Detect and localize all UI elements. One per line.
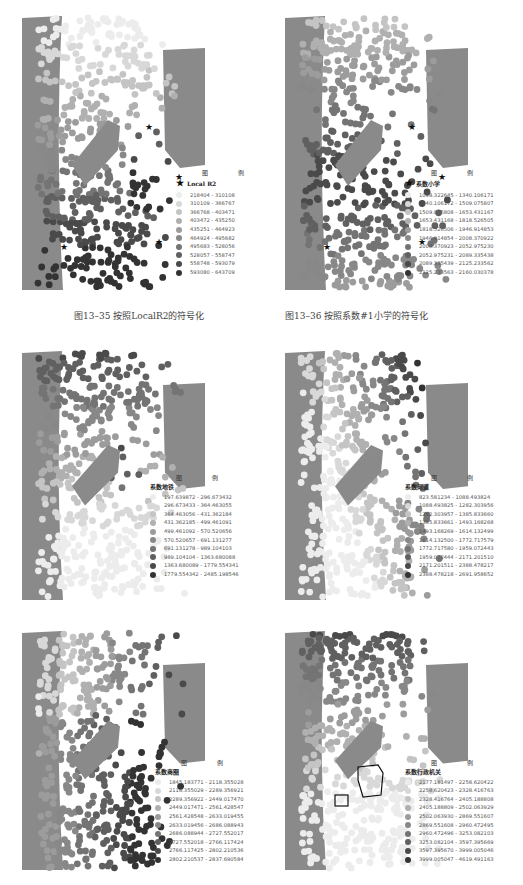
class-range-label: 2449.017471 - 2561.428547	[169, 805, 243, 810]
star-icon: ★	[176, 179, 184, 188]
legend-class-row: 2449.017471 - 2561.428547	[155, 804, 243, 813]
class-swatch-icon	[405, 494, 411, 500]
class-swatch-icon	[405, 520, 411, 526]
star-icon: ★	[405, 179, 413, 188]
class-swatch-icon	[405, 244, 411, 250]
class-range-label: 2561.428548 - 2633.019455	[169, 814, 243, 819]
legend-title: 图 例	[431, 170, 493, 176]
legend-class-row: 558748 - 593079	[176, 260, 258, 269]
class-swatch-icon	[405, 529, 411, 535]
legend-class-row: 197.639872 - 296.673432	[150, 493, 238, 502]
legend-field: 系数行政机关	[405, 769, 493, 775]
class-swatch-icon	[405, 503, 411, 509]
class-swatch-icon	[405, 554, 411, 560]
svg-text:★: ★	[323, 242, 331, 252]
class-swatch-icon	[150, 554, 156, 560]
class-range-label: 2125.233563 - 2160.030378	[419, 270, 493, 275]
legend-class-row: 3999.005047 - 4619.491163	[405, 855, 493, 864]
legend-title: 图 例	[181, 760, 243, 766]
class-swatch-icon	[150, 511, 156, 517]
class-swatch-icon	[150, 529, 156, 535]
legend-title: 图 例	[431, 760, 493, 766]
legend-class-row: 2766.117425 - 2802.210536	[155, 847, 243, 856]
legend-class-row: 1946.914854 - 2008.370922	[405, 234, 493, 243]
class-swatch-icon	[405, 209, 411, 215]
map-panel-business-district: 图 例 系数商圈 1845.183771 - 2118.3550282118.3…	[0, 615, 258, 885]
class-range-label: 495683 - 528056	[190, 244, 235, 249]
map-panel-local-r2: ★★★★ 图 例 ★Local R2 218404 - 310108310109…	[0, 0, 258, 330]
class-range-label: 364.463056 - 431.362184	[164, 512, 232, 517]
class-range-label: 2008.370923 - 2052.975230	[419, 244, 493, 249]
class-range-label: 1088.493825 - 1282.303956	[419, 503, 493, 508]
class-swatch-icon	[405, 779, 411, 785]
legend-class-row: 691.131278 - 989.104103	[150, 545, 238, 554]
class-swatch-icon	[405, 218, 411, 224]
class-swatch-icon	[150, 494, 156, 500]
figure-caption: 图13–36 按照系数#1小学的符号化	[285, 309, 428, 322]
class-range-label: 989.104104 - 1363.680088	[164, 555, 235, 560]
map-panel-subway: 图 例 系数地铁 197.639872 - 296.673432296.6734…	[0, 335, 258, 615]
legend-class-row: 1653.431168 - 1818.526505	[405, 217, 493, 226]
class-swatch-icon	[155, 857, 161, 863]
class-swatch-icon	[405, 537, 411, 543]
class-range-label: 2405.188809 - 2502.063929	[419, 805, 493, 810]
class-swatch-icon	[405, 201, 411, 207]
legend-class-row: 2561.428548 - 2633.019455	[155, 812, 243, 821]
legend-class-row: 1818.526506 - 1946.914853	[405, 225, 493, 234]
legend-class-row: 570.520657 - 691.131277	[150, 536, 238, 545]
class-swatch-icon	[150, 546, 156, 552]
class-range-label: 1385.833661 - 1493.168268	[419, 520, 493, 525]
class-swatch-icon	[176, 218, 182, 224]
legend-class-row: 218404 - 310108	[176, 191, 258, 200]
class-swatch-icon	[176, 227, 182, 233]
legend-class-row: 1493.168269 - 1614.132499	[405, 527, 493, 536]
class-swatch-icon	[176, 201, 182, 207]
legend-class-row: 435251 - 464923	[176, 225, 258, 234]
legend-class-row: 3253.082104 - 3597.395669	[405, 838, 493, 847]
class-range-label: 499.461092 - 570.520656	[164, 529, 232, 534]
legend-class-row: 2171.201511 - 2388.478217	[405, 562, 493, 571]
legend-class-row: 1340.106172 - 1509.075807	[405, 200, 493, 209]
class-range-label: 2289.356922 - 2449.017470	[169, 797, 243, 802]
class-swatch-icon	[405, 822, 411, 828]
legend-class-row: 495683 - 528056	[176, 243, 258, 252]
class-swatch-icon	[176, 261, 182, 267]
legend-class-row: 2405.188809 - 2502.063929	[405, 804, 493, 813]
class-range-label: 2388.478218 - 2691.958652	[419, 572, 493, 577]
class-swatch-icon	[176, 209, 182, 215]
legend-class-row: 2052.975231 - 2089.335438	[405, 251, 493, 260]
class-range-label: 218404 - 310108	[190, 193, 235, 198]
legend: 图 例 系数地铁 197.639872 - 296.673432296.6734…	[150, 475, 238, 579]
map-panel-primary-school: ★★★★ 图 例 ★系数小学 1098.322645 - 1340.106171…	[263, 0, 521, 330]
legend-classes: 2177.181497 - 2258.6204222258.620423 - 2…	[405, 778, 493, 864]
class-range-label: 2089.335439 - 2125.233562	[419, 261, 493, 266]
legend-class-row: 1779.554342 - 2485.198546	[150, 570, 238, 579]
class-range-label: 1959.072444 - 2171.201510	[419, 555, 493, 560]
legend: 图 例 系数河道 823.581234 - 1088.4938241088.49…	[405, 475, 493, 579]
class-range-label: 1098.322645 - 1340.106171	[419, 193, 493, 198]
legend-class-row: 1772.717580 - 1959.072443	[405, 545, 493, 554]
class-range-label: 2633.019456 - 2686.088943	[169, 823, 243, 828]
class-range-label: 2177.181497 - 2258.620422	[419, 780, 493, 785]
class-range-label: 3597.395670 - 3999.005046	[419, 848, 493, 853]
legend-class-row: 2388.478218 - 2691.958652	[405, 570, 493, 579]
class-range-label: 691.131278 - 989.104103	[164, 546, 232, 551]
class-range-label: 2686.088944 - 2727.552017	[169, 831, 243, 836]
class-range-label: 1845.183771 - 2118.355028	[169, 780, 243, 785]
class-range-label: 528057 - 558747	[190, 253, 235, 258]
class-swatch-icon	[405, 192, 411, 198]
legend-class-row: 310109 - 366767	[176, 200, 258, 209]
class-swatch-icon	[176, 235, 182, 241]
class-range-label: 1946.914854 - 2008.370922	[419, 236, 493, 241]
legend-class-row: 366768 - 403471	[176, 208, 258, 217]
legend-class-row: 1363.680089 - 1779.554341	[150, 562, 238, 571]
legend-class-row: 431.362185 - 499.461091	[150, 519, 238, 528]
class-range-label: 296.673433 - 364.463055	[164, 503, 232, 508]
legend-class-row: 2633.019456 - 2686.088943	[155, 821, 243, 830]
class-swatch-icon	[405, 805, 411, 811]
class-range-label: 366768 - 403471	[190, 210, 235, 215]
legend-class-row: 2258.620423 - 2328.416763	[405, 787, 493, 796]
legend-class-row: 2289.356922 - 2449.017470	[155, 795, 243, 804]
class-range-label: 2052.975231 - 2089.335438	[419, 253, 493, 258]
class-range-label: 435251 - 464923	[190, 227, 235, 232]
